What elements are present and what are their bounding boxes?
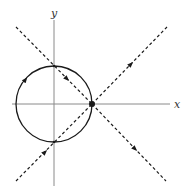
- y-axis-label: y: [50, 7, 58, 20]
- separatrix-lower-right: [92, 104, 166, 181]
- saddle-point: [89, 101, 95, 107]
- orbit-top-point: [53, 65, 55, 67]
- x-axis-label: x: [174, 98, 181, 111]
- phase-portrait-diagram: x y: [0, 0, 188, 194]
- separatrix-upper-right: [92, 27, 167, 104]
- orbit-bottom-point: [53, 141, 55, 143]
